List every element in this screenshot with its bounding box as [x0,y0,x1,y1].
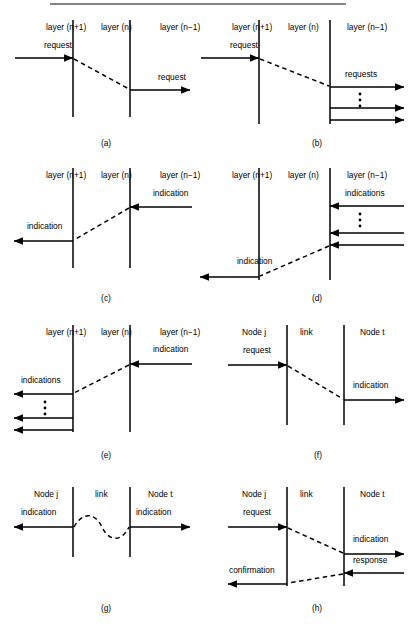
panel-g-column-label-left: Node j [34,489,58,499]
panel-c-column-label-middle: layer (n) [101,170,132,180]
panel-h-response-in-label: response [353,555,388,565]
panel-f-column-label-right: Node t [360,327,385,337]
panel-e-column-label-left: layer (n+1) [46,327,86,337]
panel-g-indication-right-label: indication [136,507,172,517]
panel-h-column-label-right: Node t [360,489,385,499]
panel-c-indication-mapping [74,208,129,240]
panel-c-column-label-left: layer (n+1) [46,170,86,180]
panel-h-confirmation-out-label: confirmation [229,565,275,575]
panel-h: Node jlinkNode trequestindicationrespons… [228,487,404,613]
panel-e-indications-ellipsis-dot [44,401,47,404]
panel-d-column-label-left: layer (n+1) [232,170,272,180]
panel-h-request-in-label: request [243,507,272,517]
panel-b-column-label-middle: layer (n) [288,22,319,32]
panel-d-caption: (d) [312,293,322,303]
panel-e-indication-in-label: indication [153,344,189,354]
panel-e-caption: (e) [101,450,111,460]
panel-d-column-label-right: layer (n−1) [347,170,387,180]
panel-g: Node jlinkNode tindicationindication(g) [14,487,190,613]
panel-b: layer (n+1)layer (n)layer (n−1)requestre… [201,20,404,148]
panel-b-request-in-label: request [230,40,259,50]
panel-b-column-label-left: layer (n+1) [232,22,272,32]
panel-e-indication-mapping [74,365,129,393]
panel-h-column-label-middle: link [300,489,313,499]
panel-h-caption: (h) [312,603,322,613]
panel-c-caption: (c) [101,293,111,303]
panel-b-requests-ellipsis-dot [359,105,362,108]
panel-h-response-confirmation-mapping [288,574,343,583]
panel-c: layer (n+1)layer (n)layer (n−1)indicatio… [14,168,200,303]
panel-h-indication-out-label: indication [353,534,389,544]
panel-a-request-in-label: request [44,40,73,50]
panel-g-column-label-right: Node t [148,489,173,499]
panel-f-request-in-label: request [243,345,272,355]
panel-d-indications-ellipsis-dot [359,213,362,216]
panel-c-indication-out-label: indication [27,221,63,231]
panel-f-request-indication-mapping [288,366,343,399]
panel-d: layer (n+1)layer (n)layer (n−1)indicatio… [200,168,404,303]
panel-f: Node jlinkNode trequestindication(f) [228,325,404,460]
panel-b-caption: (b) [312,138,322,148]
panel-d-indications-ellipsis-dot [359,219,362,222]
panel-e-column-label-right: layer (n−1) [160,327,200,337]
panel-h-request-indication-mapping [288,528,343,553]
panel-f-column-label-left: Node j [242,327,266,337]
panel-h-column-label-left: Node j [242,489,266,499]
panel-a-column-label-left: layer (n+1) [46,22,86,32]
panel-e-indications-ellipsis-dot [44,407,47,410]
panel-f-column-label-middle: link [300,327,313,337]
panel-f-indication-out-label: indication [353,380,389,390]
panel-a-caption: (a) [101,138,111,148]
panel-d-column-label-middle: layer (n) [288,170,319,180]
panel-d-indications-ellipsis-dot [359,225,362,228]
figure-root: layer (n+1)layer (n)layer (n−1)requestre… [0,0,416,633]
panel-b-column-label-right: layer (n−1) [347,22,387,32]
panel-c-column-label-right: layer (n−1) [160,170,200,180]
panel-d-indications-in-1-label: indications [345,188,385,198]
panel-d-indication-out-label: indication [237,256,273,266]
panel-b-request-mapping [260,59,329,86]
panel-g-column-label-middle: link [95,489,108,499]
panel-a: layer (n+1)layer (n)layer (n−1)requestre… [15,20,200,148]
panel-a-request-out-label: request [158,72,187,82]
panel-e-column-label-middle: layer (n) [101,327,132,337]
service-primitive-figure: layer (n+1)layer (n)layer (n−1)requestre… [0,0,416,633]
panel-e-indications-ellipsis-dot [44,413,47,416]
panel-e-indications-out-1-label: indications [21,375,61,385]
panel-b-requests-ellipsis-dot [359,93,362,96]
panel-b-requests-ellipsis-dot [359,99,362,102]
panel-e: layer (n+1)layer (n)layer (n−1)indicatio… [14,325,200,460]
panel-a-column-label-right: layer (n−1) [160,22,200,32]
panel-a-column-label-middle: layer (n) [101,22,132,32]
panel-a-request-mapping [74,59,129,89]
panel-b-requests-out-1-label: requests [345,69,377,79]
panel-g-indication-left-label: indication [21,507,57,517]
panel-f-caption: (f) [314,450,322,460]
panel-c-indication-in-label: indication [153,188,189,198]
panel-g-caption: (g) [101,603,111,613]
panel-g-link-wave [74,516,129,539]
